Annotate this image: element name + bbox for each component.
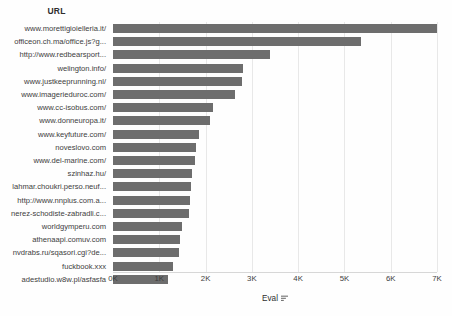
y-axis-label[interactable]: www.morettigioielleria.it/ (25, 22, 106, 35)
y-axis-label[interactable]: noveslovo.com (55, 141, 106, 154)
y-axis-label[interactable]: www.justkeeprunning.nl/ (24, 75, 106, 88)
y-axis-label[interactable]: nvdrabs.ru/sqasori.cgi?de... (13, 246, 106, 259)
bar[interactable] (113, 103, 213, 112)
bar-row (113, 246, 437, 259)
y-axis-label[interactable]: www.del-marine.com/ (33, 154, 106, 167)
x-axis-tick-label: 2K (201, 274, 211, 283)
bar-row (113, 220, 437, 233)
bar-row (113, 194, 437, 207)
x-axis-tick-label: 5K (340, 274, 350, 283)
bar[interactable] (113, 248, 179, 257)
y-axis-label[interactable]: worldgymperu.com (42, 220, 106, 233)
bar-chart-container: URL www.morettigioielleria.it/officeon.c… (0, 0, 452, 316)
bar-row (113, 75, 437, 88)
bar-row (113, 180, 437, 193)
bar[interactable] (113, 182, 191, 191)
x-axis-tick-label: 4K (293, 274, 303, 283)
y-axis-label[interactable]: lahmar.choukri.perso.neuf... (12, 180, 106, 193)
y-axis-label[interactable]: www.donneuropa.it/ (39, 114, 106, 127)
bar-row (113, 260, 437, 273)
y-axis-label[interactable]: fuckbook.xxx (62, 260, 106, 273)
bar-row (113, 101, 437, 114)
bar[interactable] (113, 169, 192, 178)
bar[interactable] (113, 156, 195, 165)
y-axis-label[interactable]: welington.info/ (57, 62, 106, 75)
bar[interactable] (113, 222, 182, 231)
bar-rows (113, 22, 437, 272)
y-axis-label[interactable]: nerez-schodiste-zabradli.c... (11, 207, 106, 220)
bar-row (113, 128, 437, 141)
bar-row (113, 154, 437, 167)
bar-row (113, 35, 437, 48)
y-axis-label[interactable]: http://www.nnplus.com.a... (17, 194, 106, 207)
bar-row (113, 114, 437, 127)
sort-descending-icon[interactable] (281, 295, 288, 302)
x-axis-tick-label: 1K (155, 274, 165, 283)
y-axis-label[interactable]: szinhaz.hu/ (68, 167, 106, 180)
y-axis-label[interactable]: www.imagerieduroc.com/ (21, 88, 106, 101)
x-axis-tick-label: 7K (432, 274, 442, 283)
y-axis-label[interactable]: http://www.redbearsport... (19, 48, 106, 61)
x-axis-tick-label: 6K (386, 274, 396, 283)
x-axis-title[interactable]: Eval (113, 294, 437, 303)
bar-row (113, 141, 437, 154)
bar[interactable] (113, 64, 243, 73)
bar[interactable] (113, 262, 173, 271)
y-axis-label[interactable]: officeon.ch.ma/office.js?g... (14, 35, 106, 48)
bar[interactable] (113, 235, 180, 244)
x-axis-ticks: 0K1K2K3K4K5K6K7K (113, 274, 437, 288)
category-column-header[interactable]: URL (0, 6, 113, 16)
y-axis-label[interactable]: www.keyfuture.com/ (38, 128, 106, 141)
bar[interactable] (113, 209, 189, 218)
y-axis-label[interactable]: adestudio.w8w.pl/asfasfa (22, 273, 106, 286)
y-axis-label[interactable]: athenaapi.comuv.com (32, 233, 106, 246)
bar-row (113, 233, 437, 246)
x-axis-tick-label: 3K (247, 274, 257, 283)
bar[interactable] (113, 130, 199, 139)
x-axis-tick-label: 0K (108, 274, 118, 283)
bar-row (113, 88, 437, 101)
bar-row (113, 22, 437, 35)
bar[interactable] (113, 37, 361, 46)
bar[interactable] (113, 196, 190, 205)
bar-row (113, 62, 437, 75)
x-axis-line (113, 272, 437, 273)
y-axis-labels: www.morettigioielleria.it/officeon.ch.ma… (0, 22, 110, 272)
bar-row (113, 48, 437, 61)
plot-area (113, 22, 437, 272)
bar[interactable] (113, 90, 235, 99)
bar[interactable] (113, 24, 437, 33)
bar[interactable] (113, 77, 242, 86)
gridline (437, 22, 438, 272)
bar[interactable] (113, 116, 210, 125)
bar-row (113, 167, 437, 180)
x-axis-title-label: Eval (262, 294, 278, 303)
y-axis-label[interactable]: www.cc-isobus.com/ (37, 101, 106, 114)
bar-row (113, 207, 437, 220)
bar[interactable] (113, 143, 196, 152)
bar[interactable] (113, 50, 270, 59)
